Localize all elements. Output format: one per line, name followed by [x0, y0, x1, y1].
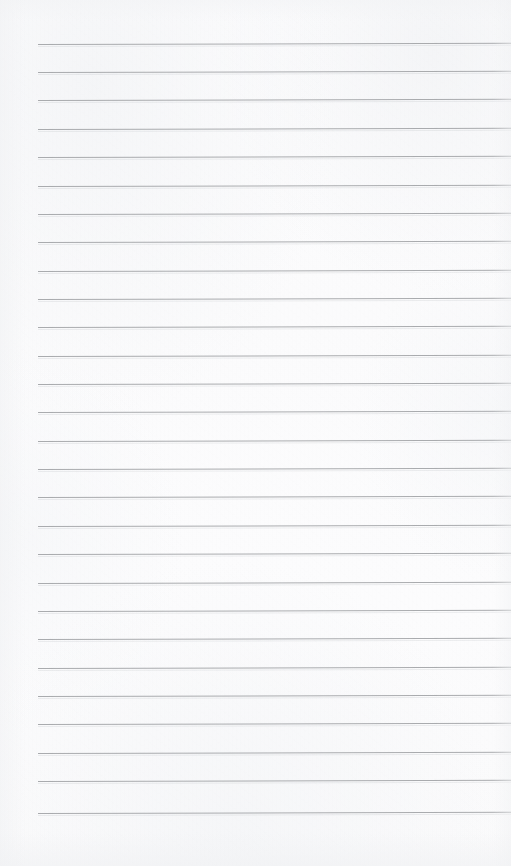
bottom-margin-area — [0, 813, 511, 866]
page-content-text[interactable] — [44, 20, 505, 810]
notepad-page — [0, 0, 511, 866]
